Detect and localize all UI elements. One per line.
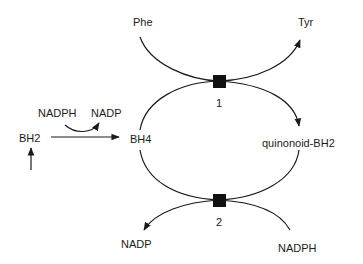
enzyme1-box	[213, 75, 226, 88]
nadp-top-label: NADP	[91, 107, 122, 119]
nadph-top-label: NADPH	[38, 107, 77, 119]
bh4-label: BH4	[130, 133, 151, 145]
enzyme1-label: 1	[216, 97, 222, 109]
nadp-bottom-label: NADP	[121, 238, 152, 250]
enzyme2-to-bh4-curve	[140, 150, 219, 200]
nadph-bottom-label: NADPH	[278, 242, 317, 254]
enzyme2-label: 2	[216, 216, 222, 228]
bh2-label: BH2	[19, 132, 40, 144]
enzyme1-to-quinonoid-arrow	[219, 81, 299, 126]
nadph-to-enzyme2-curve	[219, 200, 290, 230]
pathway-diagram	[0, 0, 363, 264]
tyr-label: Tyr	[298, 16, 313, 28]
quinonoid-to-enzyme2-curve	[219, 150, 299, 200]
nadph-to-nadp-arrow	[65, 123, 99, 132]
quinonoid-bh2-label: quinonoid-BH2	[262, 137, 335, 149]
enzyme2-box	[213, 194, 226, 207]
enzyme1-to-tyr-arrow	[219, 40, 300, 81]
enzyme2-to-nadp-arrow	[144, 200, 219, 230]
bh4-to-enzyme1-curve	[140, 81, 219, 130]
phe-to-enzyme1-curve	[140, 37, 219, 81]
phe-label: Phe	[133, 16, 153, 28]
